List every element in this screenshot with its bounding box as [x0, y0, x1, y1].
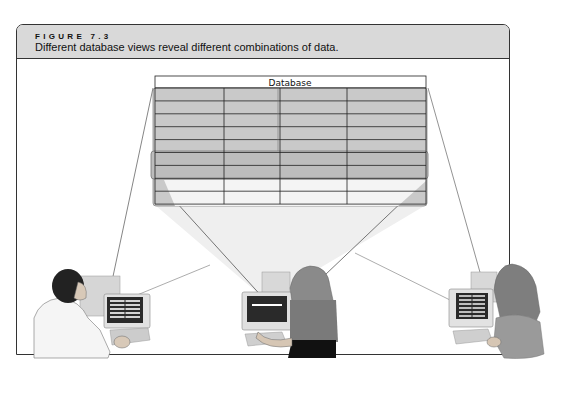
woman-pants [288, 340, 336, 358]
database-table: Database [151, 76, 428, 206]
man-hand [114, 336, 130, 348]
connector-left [108, 88, 153, 300]
keyboard [453, 329, 492, 344]
connector-right [428, 88, 485, 290]
connector-right-2 [355, 253, 450, 300]
woman-body [494, 315, 544, 359]
woman-hand [487, 337, 501, 347]
woman-shirt [290, 300, 338, 342]
monitor-screen [247, 296, 287, 322]
database-title: Database [269, 78, 312, 88]
user-left [34, 269, 150, 358]
database-views-illustration: Database [0, 0, 578, 393]
user-right [449, 264, 544, 359]
